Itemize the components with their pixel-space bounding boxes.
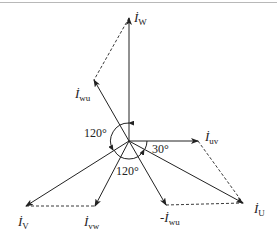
dashed-iuv-iu [198, 141, 243, 203]
label-iwu: İwu [74, 86, 91, 103]
dashed-negiwu-iu [166, 203, 243, 205]
label-ivw: İvw [83, 214, 100, 231]
label-iuv: İuv [204, 129, 219, 146]
label-iu: İU [253, 201, 265, 218]
angle-label-bottom: 120° [116, 164, 139, 178]
phasor-diagram: 120° 120° 30° İW İwu İuv İU İV İvw -İwu [0, 0, 277, 243]
dashed-iw-iwu [94, 18, 129, 80]
angle-label-right: 30° [152, 142, 169, 156]
phasor-iu-arrow [129, 141, 243, 203]
angle-arc-right-30 [145, 141, 147, 149]
label-iw: İW [133, 10, 147, 27]
phasor-iv-arrow [26, 141, 129, 206]
angle-label-left: 120° [84, 126, 107, 140]
angle-arc-bottom-120 [114, 150, 144, 159]
label-neg-iwu: -İwu [160, 210, 180, 227]
label-iv: İV [17, 214, 29, 231]
